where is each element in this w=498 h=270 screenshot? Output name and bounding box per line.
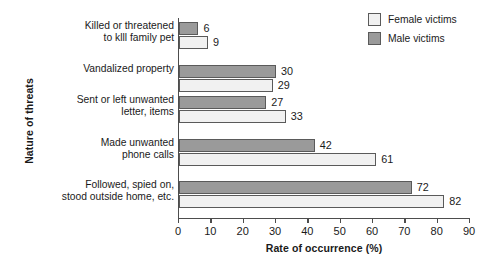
x-axis-tick-label: 0 — [163, 225, 193, 237]
bar-male — [179, 139, 315, 152]
bar-male — [179, 96, 266, 109]
x-axis-tick-label: 10 — [195, 225, 225, 237]
x-axis-tick — [437, 218, 438, 223]
x-axis-tick — [372, 218, 373, 223]
bar-female — [179, 153, 376, 166]
legend-swatch-male — [368, 32, 381, 45]
bar-value-label: 27 — [271, 96, 283, 109]
x-axis-tick — [178, 218, 179, 223]
bar-value-label: 82 — [449, 195, 461, 208]
bar-female — [179, 110, 286, 123]
x-axis-tick-label: 60 — [357, 225, 387, 237]
x-axis-title: Rate of occurrence (%) — [178, 242, 470, 254]
x-axis-tick — [243, 218, 244, 223]
bar-value-label: 42 — [320, 139, 332, 152]
bar-value-label: 33 — [291, 110, 303, 123]
bar-value-label: 29 — [278, 79, 290, 92]
x-axis-line — [178, 218, 470, 219]
x-axis-tick-label: 90 — [454, 225, 484, 237]
x-axis-tick-label: 20 — [228, 225, 258, 237]
legend-item: Female victims — [368, 12, 457, 26]
x-axis-tick — [275, 218, 276, 223]
bar-chart: Nature of threats Killed or threatened t… — [0, 0, 498, 270]
bar-value-label: 61 — [381, 153, 393, 166]
x-axis-tick — [210, 218, 211, 223]
category-label: Killed or threatened to klll family pet — [24, 20, 174, 45]
category-label: Vandalized property — [24, 63, 174, 75]
x-axis-tick — [469, 218, 470, 223]
bar-value-label: 6 — [203, 22, 209, 35]
bar-value-label: 9 — [213, 36, 219, 49]
bar-female — [179, 79, 273, 92]
legend-label: Female victims — [388, 14, 457, 25]
x-axis-tick — [307, 218, 308, 223]
x-axis-tick-label: 50 — [325, 225, 355, 237]
legend-item: Male victims — [368, 31, 457, 45]
category-label-column: Killed or threatened to klll family pet … — [24, 18, 176, 218]
x-axis-tick — [404, 218, 405, 223]
x-axis-tick-label: 80 — [422, 225, 452, 237]
legend-label: Male victims — [388, 33, 445, 44]
x-axis-tick-label: 70 — [389, 225, 419, 237]
x-axis-tick-label: 30 — [260, 225, 290, 237]
chart-legend: Female victimsMale victims — [368, 12, 457, 50]
category-label: Made unwanted phone calls — [24, 137, 174, 162]
bar-male — [179, 65, 276, 78]
x-axis-tick-label: 40 — [292, 225, 322, 237]
bar-male — [179, 22, 198, 35]
bar-female — [179, 36, 208, 49]
bar-male — [179, 181, 412, 194]
category-label: Sent or left unwanted letter, items — [24, 94, 174, 119]
bar-value-label: 30 — [281, 65, 293, 78]
x-axis-tick — [340, 218, 341, 223]
bar-female — [179, 195, 444, 208]
bar-value-label: 72 — [417, 181, 429, 194]
legend-swatch-female — [368, 13, 381, 26]
category-label: Followed, spied on, stood outside home, … — [24, 179, 174, 204]
